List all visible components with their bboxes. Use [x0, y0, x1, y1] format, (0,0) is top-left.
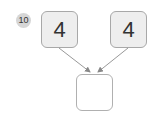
answer-box[interactable] — [76, 74, 113, 111]
arrow-left-icon — [59, 48, 90, 72]
arrow-right-icon — [98, 48, 128, 72]
